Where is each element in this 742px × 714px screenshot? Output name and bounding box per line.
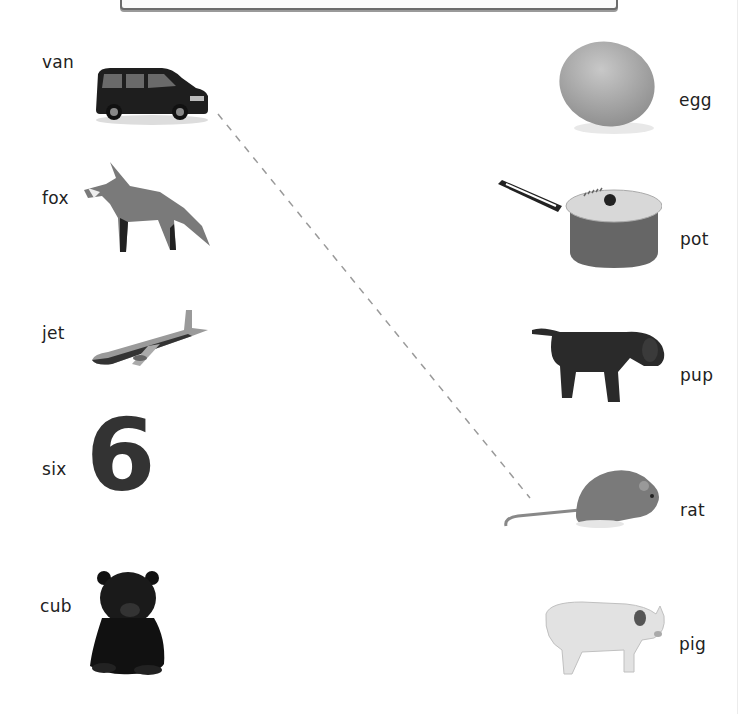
bear-cub-icon bbox=[88, 568, 176, 680]
word-egg: egg bbox=[679, 90, 712, 110]
word-rat: rat bbox=[680, 500, 705, 520]
word-van: van bbox=[42, 52, 74, 72]
fox-icon bbox=[80, 158, 215, 260]
word-jet: jet bbox=[42, 323, 65, 343]
jet-icon bbox=[88, 306, 208, 372]
word-pup: pup bbox=[680, 365, 713, 385]
word-cub: cub bbox=[40, 596, 72, 616]
word-pot: pot bbox=[680, 229, 709, 249]
rat-icon bbox=[504, 466, 664, 536]
van-icon bbox=[92, 64, 214, 130]
word-six: six bbox=[42, 459, 67, 479]
egg-icon bbox=[556, 40, 662, 140]
word-fox: fox bbox=[42, 188, 69, 208]
pot-icon bbox=[496, 178, 662, 274]
number-six: 6 bbox=[86, 406, 156, 506]
puppy-icon bbox=[532, 326, 668, 408]
word-pig: pig bbox=[679, 634, 706, 654]
pig-icon bbox=[542, 600, 666, 684]
